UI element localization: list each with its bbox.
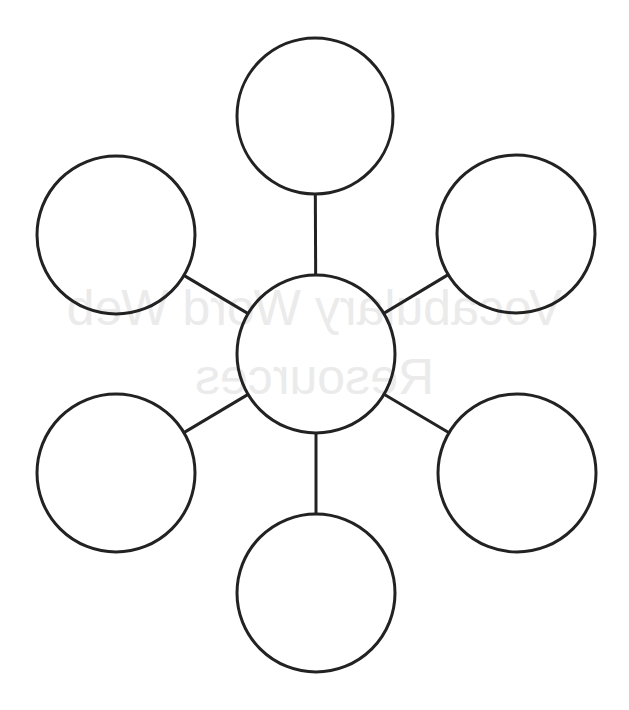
connector-lower-left (184, 394, 248, 432)
bubble-center (237, 275, 395, 433)
bubble-lower-left (37, 394, 195, 552)
bubble-upper-right (437, 155, 595, 313)
connector-upper-left (184, 275, 248, 313)
bubble-lower-right (438, 394, 596, 552)
word-web-diagram: Vocabulary Word Web Resources (0, 0, 629, 710)
word-web-canvas (0, 0, 629, 710)
connector-upper-right (384, 275, 449, 314)
bubble-upper-left (37, 156, 195, 314)
connector-lower-right (384, 394, 449, 433)
bubble-bottom (237, 514, 395, 672)
word-bubbles (37, 38, 596, 672)
connector-lines (184, 194, 449, 514)
bubble-top (237, 38, 393, 194)
